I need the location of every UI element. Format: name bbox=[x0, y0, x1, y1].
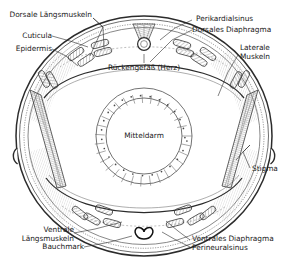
label-mitteldarm: Mitteldarm bbox=[110, 132, 178, 141]
figure-canvas: Dorsale Längsmuskeln Cuticula Epidermis … bbox=[0, 0, 289, 271]
spiracle-left bbox=[13, 148, 17, 164]
label-epidermis: Epidermis bbox=[4, 45, 52, 54]
label-laterale-muskeln-line2: Muskeln bbox=[240, 53, 288, 62]
label-cuticula: Cuticula bbox=[8, 32, 52, 41]
spiracle-right bbox=[271, 148, 275, 164]
label-stigma: Stigma bbox=[252, 165, 288, 174]
label-bauchmark: Bauchmark bbox=[10, 243, 84, 252]
label-perikardialsinus: Perikardialsinus bbox=[196, 15, 288, 24]
label-perineuralsinus: Perineuralsinus bbox=[192, 244, 280, 253]
label-dorsales-diaphragma: Dorsales Diaphragma bbox=[192, 26, 289, 35]
label-dorsale-laengsmuskeln: Dorsale Längsmuskeln bbox=[8, 11, 92, 20]
label-rueckengefaess-herz: Rückengefäß (Herz) bbox=[96, 64, 192, 73]
